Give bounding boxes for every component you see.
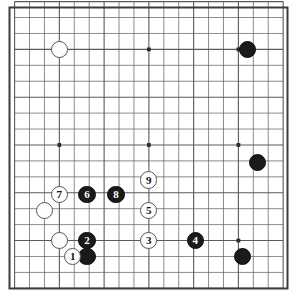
stone-move-number: 5 <box>146 205 152 216</box>
stone-move-number: 9 <box>146 175 152 186</box>
stone-layer: 768953421 <box>0 0 294 303</box>
stone-move-number: 6 <box>84 189 90 200</box>
stone-move-number: 1 <box>70 251 76 262</box>
go-board-diagram: 768953421 <box>0 0 294 303</box>
stone-move-2: 2 <box>78 232 95 249</box>
stone-move-9: 9 <box>140 171 157 188</box>
stone-move-8: 8 <box>107 186 124 203</box>
stone-move-7: 7 <box>51 186 68 203</box>
stone-white <box>36 202 53 219</box>
stone-black <box>249 154 266 171</box>
stone-move-4: 4 <box>187 232 204 249</box>
stone-move-5: 5 <box>140 202 157 219</box>
stone-black <box>239 41 256 58</box>
stone-move-number: 8 <box>113 189 119 200</box>
stone-move-number: 3 <box>146 235 152 246</box>
stone-move-6: 6 <box>78 186 95 203</box>
stone-white <box>51 232 68 249</box>
stone-move-number: 7 <box>57 189 63 200</box>
stone-move-number: 4 <box>192 235 198 246</box>
stone-white <box>51 41 68 58</box>
stone-black <box>234 248 251 265</box>
stone-move-3: 3 <box>140 232 157 249</box>
stone-move-1: 1 <box>64 248 81 265</box>
stone-move-number: 2 <box>84 235 90 246</box>
